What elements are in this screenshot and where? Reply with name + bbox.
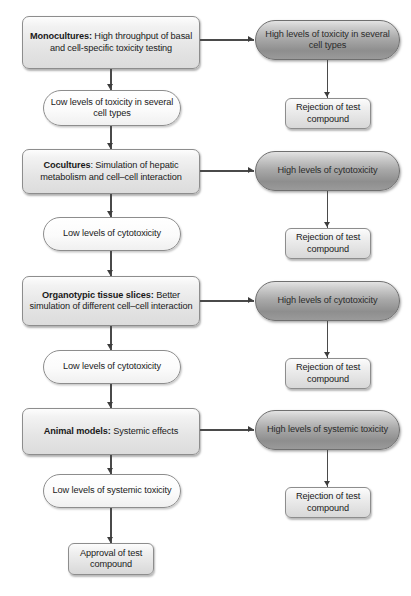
method-box-desc-animal-models: Systemic effects — [111, 426, 179, 436]
rejection-label-animal-models: Rejection of test compound — [286, 491, 370, 513]
low-outcome-label-monocultures: Low levels of toxicity in several cell t… — [44, 97, 180, 119]
connector-low-to-next-method-monocultures-arrowhead — [107, 143, 113, 148]
connector-method-to-low-animal-models-arrowhead — [107, 468, 113, 473]
method-box-animal-models[interactable]: Animal models: Systemic effects — [22, 408, 200, 455]
method-box-label-organotypic-tissue-slices: Organotypic tissue slices: Better simula… — [23, 290, 199, 312]
connector-method-to-high-cocultures — [200, 170, 254, 171]
connector-method-to-low-organotypic-tissue-slices-arrowhead — [107, 344, 113, 349]
method-box-monocultures[interactable]: Monocultures: High throughput of basal a… — [22, 16, 200, 69]
method-box-name-organotypic-tissue-slices: Organotypic tissue slices: — [42, 290, 154, 300]
connector-method-to-low-cocultures-arrowhead — [107, 211, 113, 216]
high-outcome-label-monocultures: High levels of toxicity in several cell … — [256, 29, 399, 51]
method-box-organotypic-tissue-slices[interactable]: Organotypic tissue slices: Better simula… — [22, 276, 200, 326]
high-outcome-label-animal-models: High levels of systemic toxicity — [262, 424, 393, 435]
rejection-label-monocultures: Rejection of test compound — [286, 102, 370, 124]
low-outcome-organotypic-tissue-slices[interactable]: Low levels of cytotoxicity — [43, 350, 181, 384]
connector-low-to-next-method-cocultures-arrowhead — [107, 270, 113, 275]
rejection-box-cocultures[interactable]: Rejection of test compound — [285, 228, 371, 259]
connector-method-to-high-monocultures-arrowhead — [248, 36, 253, 42]
high-outcome-label-organotypic-tissue-slices: High levels of cytotoxicity — [273, 295, 383, 306]
high-outcome-label-cocultures: High levels of cytotoxicity — [273, 165, 383, 176]
connector-method-to-high-organotypic-tissue-slices-arrowhead — [248, 297, 253, 303]
method-box-label-animal-models: Animal models: Systemic effects — [39, 426, 184, 437]
low-outcome-monocultures[interactable]: Low levels of toxicity in several cell t… — [43, 90, 181, 126]
high-outcome-organotypic-tissue-slices[interactable]: High levels of cytotoxicity — [255, 281, 400, 321]
approval-label: Approval of test compound — [69, 548, 153, 570]
connector-high-to-rejection-animal-models-arrowhead — [324, 481, 330, 486]
connector-high-to-rejection-cocultures-arrowhead — [324, 222, 330, 227]
rejection-label-organotypic-tissue-slices: Rejection of test compound — [286, 362, 370, 384]
connector-high-to-rejection-monocultures-arrowhead — [324, 92, 330, 97]
method-box-name-cocultures: Cocultures — [43, 160, 90, 170]
connector-high-to-rejection-organotypic-tissue-slices-arrowhead — [324, 352, 330, 357]
connector-method-to-high-animal-models-arrowhead — [248, 426, 253, 432]
flowchart-canvas: Monocultures: High throughput of basal a… — [0, 0, 411, 596]
connector-method-to-high-animal-models — [200, 429, 254, 430]
high-outcome-cocultures[interactable]: High levels of cytotoxicity — [255, 151, 400, 191]
approval-box[interactable]: Approval of test compound — [68, 543, 154, 575]
low-outcome-label-organotypic-tissue-slices: Low levels of cytotoxicity — [58, 361, 166, 372]
rejection-label-cocultures: Rejection of test compound — [286, 232, 370, 254]
rejection-box-animal-models[interactable]: Rejection of test compound — [285, 487, 371, 518]
method-box-cocultures[interactable]: Cocultures: Simulation of hepatic metabo… — [22, 149, 200, 194]
high-outcome-animal-models[interactable]: High levels of systemic toxicity — [255, 410, 400, 450]
low-outcome-label-animal-models: Low levels of systemic toxicity — [48, 485, 177, 496]
method-box-name-monocultures: Monocultures: — [30, 31, 92, 41]
connector-low-to-next-method-organotypic-tissue-slices-arrowhead — [107, 402, 113, 407]
method-box-label-cocultures: Cocultures: Simulation of hepatic metabo… — [23, 160, 199, 182]
method-box-label-monocultures: Monocultures: High throughput of basal a… — [23, 31, 199, 53]
connector-method-to-high-cocultures-arrowhead — [248, 167, 253, 173]
low-outcome-cocultures[interactable]: Low levels of cytotoxicity — [43, 217, 181, 251]
low-outcome-label-cocultures: Low levels of cytotoxicity — [58, 228, 166, 239]
rejection-box-organotypic-tissue-slices[interactable]: Rejection of test compound — [285, 358, 371, 389]
connector-method-to-low-monocultures-arrowhead — [107, 84, 113, 89]
connector-method-to-high-organotypic-tissue-slices — [200, 300, 254, 301]
connector-method-to-high-monocultures — [200, 39, 254, 40]
method-box-name-animal-models: Animal models: — [44, 426, 111, 436]
rejection-box-monocultures[interactable]: Rejection of test compound — [285, 98, 371, 129]
high-outcome-monocultures[interactable]: High levels of toxicity in several cell … — [255, 20, 400, 60]
connector-low-to-approval-arrowhead — [107, 537, 113, 542]
low-outcome-animal-models[interactable]: Low levels of systemic toxicity — [43, 474, 181, 508]
